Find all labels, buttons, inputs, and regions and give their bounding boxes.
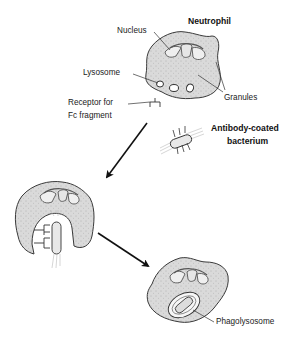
neutrophil-phagolysosome-cell <box>147 258 228 323</box>
granules-label: Granules <box>224 94 257 102</box>
antibody-coated-bacterium-icon <box>160 126 204 154</box>
phagolysosome-label: Phagolysosome <box>216 318 274 326</box>
arrow-stage2-to-stage3 <box>98 233 148 266</box>
nucleus-label: Nucleus <box>117 27 147 35</box>
phagocytosis-diagram <box>0 0 301 343</box>
fc-receptor-icon <box>150 98 160 107</box>
lysosome-label: Lysosome <box>83 69 120 77</box>
bacterium-label-line1: Antibody-coated <box>211 124 279 133</box>
receptor-label-line1: Receptor for <box>68 99 113 107</box>
neutrophil-engulfing-cell <box>15 182 94 268</box>
arrow-stage1-to-stage2 <box>107 123 147 177</box>
neutrophil-title: Neutrophil <box>188 17 231 26</box>
bacterium-label-line2: bacterium <box>227 137 268 146</box>
neutrophil-cell <box>146 32 221 107</box>
receptor-label-line2: Fc fragment <box>68 112 112 120</box>
